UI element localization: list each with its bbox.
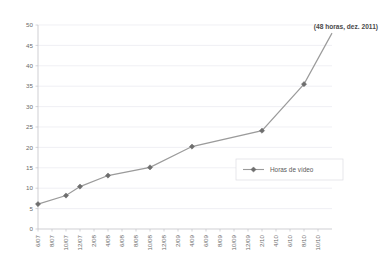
x-tick-label: 4/09 (188, 234, 195, 247)
y-tick-label: 35 (26, 82, 33, 89)
x-tick-label: 12/08 (160, 234, 167, 250)
x-tick-label: 6/09 (202, 234, 209, 247)
y-tick-label: 45 (26, 42, 33, 49)
y-tick-label: 0 (30, 225, 34, 232)
x-tick-marks-group (38, 229, 318, 232)
x-tick-label: 4/10 (272, 234, 279, 247)
x-tick-label: 10/09 (230, 234, 237, 250)
x-tick-label: 4/08 (104, 234, 111, 247)
x-tick-label: 10/10 (314, 234, 321, 250)
x-tick-label: 6/10 (286, 234, 293, 247)
chart-legend[interactable]: Horas de vídeo (236, 159, 343, 180)
x-tick-label: 6/07 (34, 234, 41, 247)
x-tick-label: 8/08 (132, 234, 139, 247)
y-tick-label: 40 (26, 62, 33, 69)
data-point-marker (189, 144, 194, 149)
x-tick-label: 10/08 (146, 234, 153, 250)
data-point-marker (147, 165, 152, 170)
line-chart: 05101520253035404550 6/078/0710/0712/072… (0, 0, 384, 265)
y-tick-label: 20 (26, 144, 33, 151)
chart-container: 05101520253035404550 6/078/0710/0712/072… (0, 0, 384, 265)
y-tick-label: 25 (26, 123, 33, 130)
x-tick-label: 8/07 (48, 234, 55, 247)
x-tick-label: 2/09 (174, 234, 181, 247)
y-tick-label: 10 (26, 184, 33, 191)
x-tick-label: 8/10 (300, 234, 307, 247)
x-tick-label: 2/10 (258, 234, 265, 247)
x-tick-label: 12/09 (244, 234, 251, 250)
legend-entry-label: Horas de vídeo (270, 166, 314, 173)
x-tick-label: 10/07 (62, 234, 69, 250)
series-horas-de-video (35, 33, 332, 207)
x-tick-label: 2/08 (90, 234, 97, 247)
x-tick-label: 6/08 (118, 234, 125, 247)
y-tick-label: 30 (26, 103, 33, 110)
y-tick-label: 5 (30, 205, 34, 212)
y-tick-label: 15 (26, 164, 33, 171)
chart-annotation: (48 horas, dez. 2011) (314, 23, 378, 31)
y-tick-label: 50 (26, 21, 33, 28)
gridlines-group (38, 25, 332, 209)
x-tick-label: 12/07 (76, 234, 83, 250)
data-point-marker (35, 202, 40, 207)
y-tick-labels-group: 05101520253035404550 (26, 21, 33, 232)
x-tick-label: 8/09 (216, 234, 223, 247)
data-point-marker (105, 173, 110, 178)
x-tick-labels-group: 6/078/0710/0712/072/084/086/088/0810/081… (34, 234, 321, 250)
